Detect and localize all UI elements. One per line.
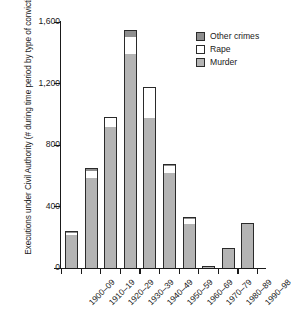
- x-tick-mark: [120, 268, 121, 274]
- legend-label: Other crimes: [210, 31, 259, 41]
- swatch-rape-icon: [196, 45, 205, 54]
- legend-label: Murder: [210, 57, 237, 67]
- x-tick-mark: [257, 268, 258, 274]
- x-tick-mark: [81, 268, 82, 274]
- legend-item-murder: Murder: [196, 57, 288, 67]
- x-tick-mark: [198, 268, 199, 274]
- legend-item-other-crimes: Other crimes: [196, 31, 288, 41]
- x-tick-mark: [61, 268, 62, 274]
- x-tick-mark: [237, 268, 238, 274]
- swatch-other-crimes-icon: [196, 32, 205, 41]
- legend-item-rape: Rape: [196, 44, 288, 54]
- x-tick-mark: [100, 268, 101, 274]
- legend-label: Rape: [210, 44, 231, 54]
- swatch-murder-icon: [196, 58, 205, 67]
- x-tick-mark: [139, 268, 140, 274]
- executions-stacked-bar-chart: Executions under Civil Authority (# duri…: [0, 0, 292, 333]
- x-tick-mark: [179, 268, 180, 274]
- x-tick-mark: [218, 268, 219, 274]
- chart-legend: Other crimesRapeMurder: [196, 31, 288, 71]
- x-tick-mark: [159, 268, 160, 274]
